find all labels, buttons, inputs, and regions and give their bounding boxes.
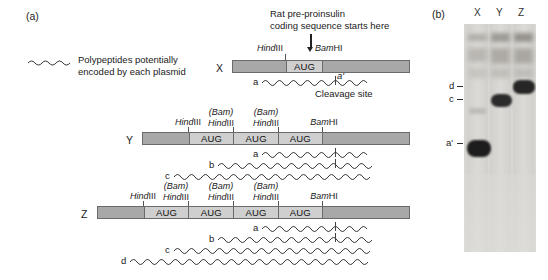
site-roman: HI (329, 191, 338, 201)
polypeptide-strand-z-d (130, 255, 372, 267)
site-italic: Hind (257, 43, 276, 53)
gel-smear-x-upper (468, 48, 487, 62)
site-paren: (Bam) (209, 181, 234, 191)
site-paren: (Bam) (209, 107, 234, 117)
site-label-z-bamhi: BamHI (297, 191, 351, 202)
site-roman: III (182, 192, 190, 202)
site-roman: III (227, 192, 235, 202)
segment-z-4: AUG (278, 207, 322, 218)
site-label-x-bamhi: BamHI (315, 43, 375, 54)
strand-letter-x-a-prime: a' (337, 70, 344, 81)
site-label-z-hindiii-4: (Bam) HindIII (238, 181, 294, 202)
gel-faint-band-x (469, 108, 486, 114)
wavy-line-icon (28, 58, 70, 68)
segment-y-0 (143, 133, 189, 144)
segment-z-1: AUG (144, 207, 189, 218)
construct-bar-x: AUG (232, 60, 410, 73)
panel-a-label: (a) (26, 10, 39, 22)
strand-letter-z-a: a (253, 222, 258, 233)
site-roman: HI (334, 43, 343, 53)
cleavage-tick-y-a (335, 148, 336, 157)
construct-letter-z: Z (81, 208, 87, 220)
site-roman: III (276, 43, 284, 53)
legend-line-1: Polypeptides potentially (78, 54, 178, 66)
gel-marker-label-d: d (449, 80, 454, 91)
strand-letter-z-d: d (121, 255, 126, 266)
aug-codon: AUG (156, 207, 177, 218)
construct-letter-y: Y (126, 134, 133, 146)
gel-lower-background (464, 174, 536, 252)
site-italic: Hind (253, 192, 272, 202)
cleavage-tick-z-b (335, 233, 336, 242)
gel-marker-label-c: c (449, 93, 454, 104)
start-annotation-line-2: coding sequence starts here (270, 20, 389, 32)
site-label-y-bamhi: BamHI (297, 117, 351, 128)
site-italic: Hind (208, 118, 227, 128)
strand-letter-x-a: a (253, 76, 258, 87)
start-annotation-line-1: Rat pre-proinsulin (270, 8, 345, 20)
site-roman: HI (329, 117, 338, 127)
gel-smear-y-top (491, 33, 510, 42)
site-italic: Hind (208, 192, 227, 202)
aug-codon: AUG (294, 61, 315, 72)
segment-z-2: AUG (188, 207, 233, 218)
gel-band-z-d (513, 80, 535, 94)
construct-letter-x: X (216, 62, 223, 74)
strand-letter-y-b: b (209, 159, 214, 170)
gel-smear-z-mid (514, 68, 533, 78)
cleavage-tick-z-a (335, 222, 336, 231)
gel-smear-z-upper (514, 48, 533, 64)
site-paren: (Bam) (254, 107, 279, 117)
site-roman: III (272, 192, 280, 202)
site-paren: (Bam) (164, 181, 189, 191)
gel-band-x-a-prime (467, 140, 491, 157)
gel-marker-tick-c (457, 99, 463, 100)
segment-x-1: AUG (286, 61, 322, 72)
strand-letter-z-b: b (209, 233, 214, 244)
panel-b-label: (b) (432, 8, 445, 20)
segment-y-3: AUG (278, 133, 322, 144)
segment-y-2: AUG (233, 133, 278, 144)
gel-lane-label-z: Z (518, 7, 524, 18)
aug-codon: AUG (246, 133, 267, 144)
polypeptide-strand-x-a (262, 76, 372, 88)
cleavage-tick-y-b (335, 159, 336, 168)
gel-smear-y-upper (491, 48, 510, 64)
aug-codon: AUG (290, 207, 311, 218)
gel-blot-image (464, 24, 536, 252)
aug-codon: AUG (245, 207, 266, 218)
gel-marker-label-a-prime: a' (446, 137, 453, 148)
gel-smear-z-top (514, 33, 533, 42)
gel-marker-tick-d (457, 86, 463, 87)
strand-letter-y-a: a (253, 148, 258, 159)
site-roman: III (272, 118, 280, 128)
segment-z-5 (322, 207, 409, 218)
site-italic: Hind (175, 117, 194, 127)
site-italic: Bam (315, 43, 334, 53)
aug-codon: AUG (201, 207, 222, 218)
cleavage-site-label: Cleavage site (315, 88, 373, 100)
site-label-y-hindiii-3: (Bam) HindIII (238, 107, 294, 128)
construct-bar-y: AUG AUG AUG (142, 132, 410, 145)
site-italic: Bam (310, 117, 329, 127)
segment-x-2 (322, 61, 409, 72)
site-label-x-hindiii: HindIII (240, 43, 300, 54)
site-italic: Bam (310, 191, 329, 201)
figure-root: (a) Polypeptides potentially encoded by … (0, 0, 548, 280)
segment-z-0 (98, 207, 144, 218)
gel-lane-label-x: X (474, 7, 481, 18)
segment-y-4 (322, 133, 409, 144)
segment-y-1: AUG (189, 133, 234, 144)
site-roman: III (227, 118, 235, 128)
gel-smear-x-mid (468, 68, 487, 78)
strand-letter-z-c: c (165, 244, 170, 255)
gel-marker-tick-a-prime (457, 143, 463, 144)
site-italic: Hind (130, 191, 149, 201)
legend-line-2: encoded by each plasmid (78, 66, 186, 78)
segment-x-0 (233, 61, 286, 72)
gel-smear-x-top (468, 34, 487, 41)
segment-z-3: AUG (233, 207, 278, 218)
site-paren: (Bam) (254, 181, 279, 191)
site-italic: Hind (253, 118, 272, 128)
gel-band-y-c (491, 94, 512, 107)
